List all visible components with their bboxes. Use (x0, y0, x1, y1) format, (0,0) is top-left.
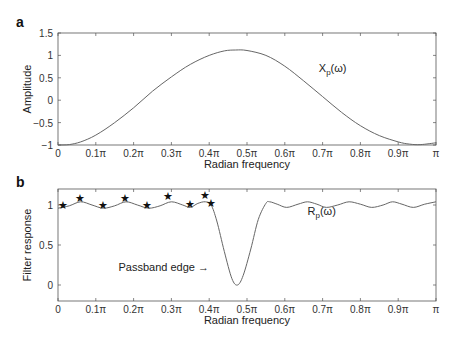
curve-annotation: Xp(ω) (319, 62, 347, 77)
x-tick-label: 0.3π (161, 304, 182, 315)
x-tick-label: 0.3π (161, 148, 182, 159)
panel-b-letter: b (16, 174, 25, 190)
x-tick-label: 0.7π (312, 148, 333, 159)
x-tick-label: 0.7π (312, 304, 333, 315)
star-marker-icon: ★ (142, 199, 152, 211)
y-tick-label: 1 (47, 50, 53, 61)
panel-b-xlabel: Radian frequency (204, 314, 291, 326)
x-tick-label: π (433, 304, 440, 315)
x-tick-label: 0 (55, 148, 61, 159)
y-tick-label: 0.5 (39, 240, 53, 251)
panel-b-filter-response-plot: b 00.1π0.2π0.3π0.4π0.5π0.6π0.7π0.8π0.9ππ… (16, 174, 440, 326)
figure: a 00.1π0.2π0.3π0.4π0.5π0.6π0.7π0.8π0.9ππ… (0, 0, 455, 340)
x-tick-label: π (433, 148, 440, 159)
star-marker-icon: ★ (163, 190, 173, 202)
y-tick-label: 0 (47, 95, 53, 106)
star-marker-icon: ★ (58, 199, 68, 211)
panel-a-annotations: Xp(ω) (319, 62, 347, 77)
panel-a-amplitude-plot: a 00.1π0.2π0.3π0.4π0.5π0.6π0.7π0.8π0.9ππ… (16, 14, 440, 170)
curve-annotation: Passband edge → (118, 261, 209, 273)
panel-a-xlabel: Radian frequency (204, 158, 291, 170)
star-marker-icon: ★ (120, 192, 130, 204)
panel-b-ylabel: Filter response (21, 209, 33, 282)
star-marker-icon: ★ (185, 198, 195, 210)
y-tick-label: 0.5 (39, 73, 53, 84)
y-tick-label: −1 (42, 140, 54, 151)
y-tick-label: 1.5 (39, 28, 53, 39)
x-tick-label: 0.1π (85, 304, 106, 315)
panel-a-ticks: 00.1π0.2π0.3π0.4π0.5π0.6π0.7π0.8π0.9ππ−1… (33, 28, 439, 159)
xp-curve (58, 50, 436, 145)
x-tick-label: 0.2π (123, 304, 144, 315)
panel-a-letter: a (16, 14, 24, 30)
x-tick-label: 0.9π (388, 148, 409, 159)
curve-annotation: Rp(ω) (307, 205, 335, 220)
x-tick-label: 0.2π (123, 148, 144, 159)
rp-curve (58, 201, 436, 285)
y-tick-label: 0 (47, 280, 53, 291)
x-tick-label: 0 (55, 304, 61, 315)
panel-a-ylabel: Amplitude (21, 65, 33, 114)
y-tick-label: −0.5 (33, 118, 53, 129)
passband-star-markers: ★★★★★★★★★ (58, 189, 216, 211)
x-tick-label: 0.1π (85, 148, 106, 159)
x-tick-label: 0.9π (388, 304, 409, 315)
star-marker-icon: ★ (75, 192, 85, 204)
star-marker-icon: ★ (206, 197, 216, 209)
x-tick-label: 0.8π (350, 148, 371, 159)
x-tick-label: 0.8π (350, 304, 371, 315)
panel-a-axes-frame (58, 33, 436, 145)
star-marker-icon: ★ (98, 199, 108, 211)
y-tick-label: 1 (47, 200, 53, 211)
